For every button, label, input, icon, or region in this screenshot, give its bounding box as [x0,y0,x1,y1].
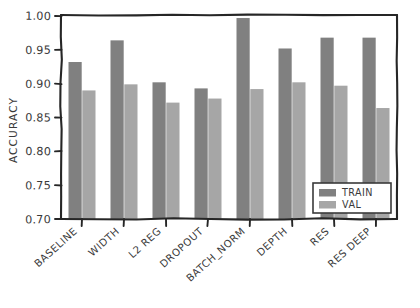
bar-chart-figure: 0.700.750.800.850.900.951.00 BASELINEWID… [0,0,420,308]
bar-dropout-val [208,99,221,219]
bar-width-train [111,40,124,219]
x-axis-label-res: RES [308,225,331,248]
x-tick-mark [207,219,208,226]
bar-baseline-val [82,90,95,219]
y-tick-label: 0.85 [25,111,51,124]
bar-depth-train [279,48,292,219]
bar-baseline-train [69,62,82,219]
chart-legend: TRAINVAL [313,183,391,213]
legend-swatch-train [319,189,336,197]
legend-swatch-val [319,201,336,209]
x-axis-label-depth: DEPTH [255,225,290,258]
bar-dropout-train [195,88,208,219]
y-tick-label: 0.75 [25,179,51,192]
bar-batch-norm-val [250,89,263,219]
x-axis-label-baseline: BASELINE [32,225,79,269]
x-axis-label-l2-reg: L2 REG [126,225,163,260]
bar-batch-norm-train [237,18,250,219]
y-axis-ticks: 0.700.750.800.850.900.951.00 [25,10,61,227]
bar-depth-val [292,82,305,219]
axis-right [397,15,398,219]
x-axis-label-width: WIDTH [86,225,121,258]
y-tick-label: 1.00 [25,10,51,23]
legend-label-train: TRAIN [341,187,373,198]
y-tick-label: 0.95 [25,44,51,57]
bar-l2-reg-val [166,103,179,219]
y-tick-label: 0.90 [25,78,51,91]
bar-width-val [124,84,137,219]
bar-l2-reg-train [153,82,166,219]
x-axis-label-res-deep: RES DEEP [326,225,374,269]
y-axis-label: ACCURACY [7,97,19,163]
legend-label-val: VAL [342,199,361,210]
y-tick-label: 0.80 [25,145,51,158]
axis-top [61,15,397,16]
x-axis-category-labels: BASELINEWIDTHL2 REGDROPOUTBATCH_NORMDEPT… [32,225,373,284]
axis-bottom [61,218,397,219]
y-tick-label: 0.70 [25,213,51,227]
chart-canvas: 0.700.750.800.850.900.951.00 BASELINEWID… [0,0,420,308]
